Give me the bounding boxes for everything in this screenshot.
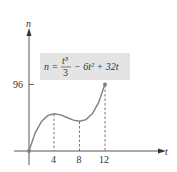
y-axis-arrow-icon [27,28,32,36]
y-tick-label-96: 96 [13,79,23,90]
dashed-guides [54,85,105,151]
x-tick-label-8: 8 [77,154,82,165]
origin-point [27,149,31,153]
end-point [103,83,107,87]
y-axis-label: n [26,18,31,29]
x-axis-label: t [165,146,168,157]
x-tick-label-12: 12 [99,154,109,165]
svg-text:n: n [44,61,49,72]
svg-text:=: = [52,61,58,72]
svg-text:− 6t² + 32t: − 6t² + 32t [74,61,119,72]
graph-canvas: n t 96 4 8 12 n = t³ 3 − 6t² + 32t [0,0,177,172]
svg-text:t³: t³ [62,55,69,66]
svg-text:3: 3 [63,67,68,78]
function-curve [29,84,105,151]
x-tick-label-4: 4 [51,154,56,165]
